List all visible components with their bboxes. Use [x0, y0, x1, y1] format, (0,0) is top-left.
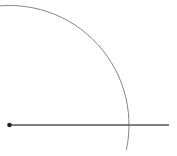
circular-arc [0, 5, 129, 149]
center-point [7, 123, 12, 128]
geometry-diagram [0, 0, 177, 156]
